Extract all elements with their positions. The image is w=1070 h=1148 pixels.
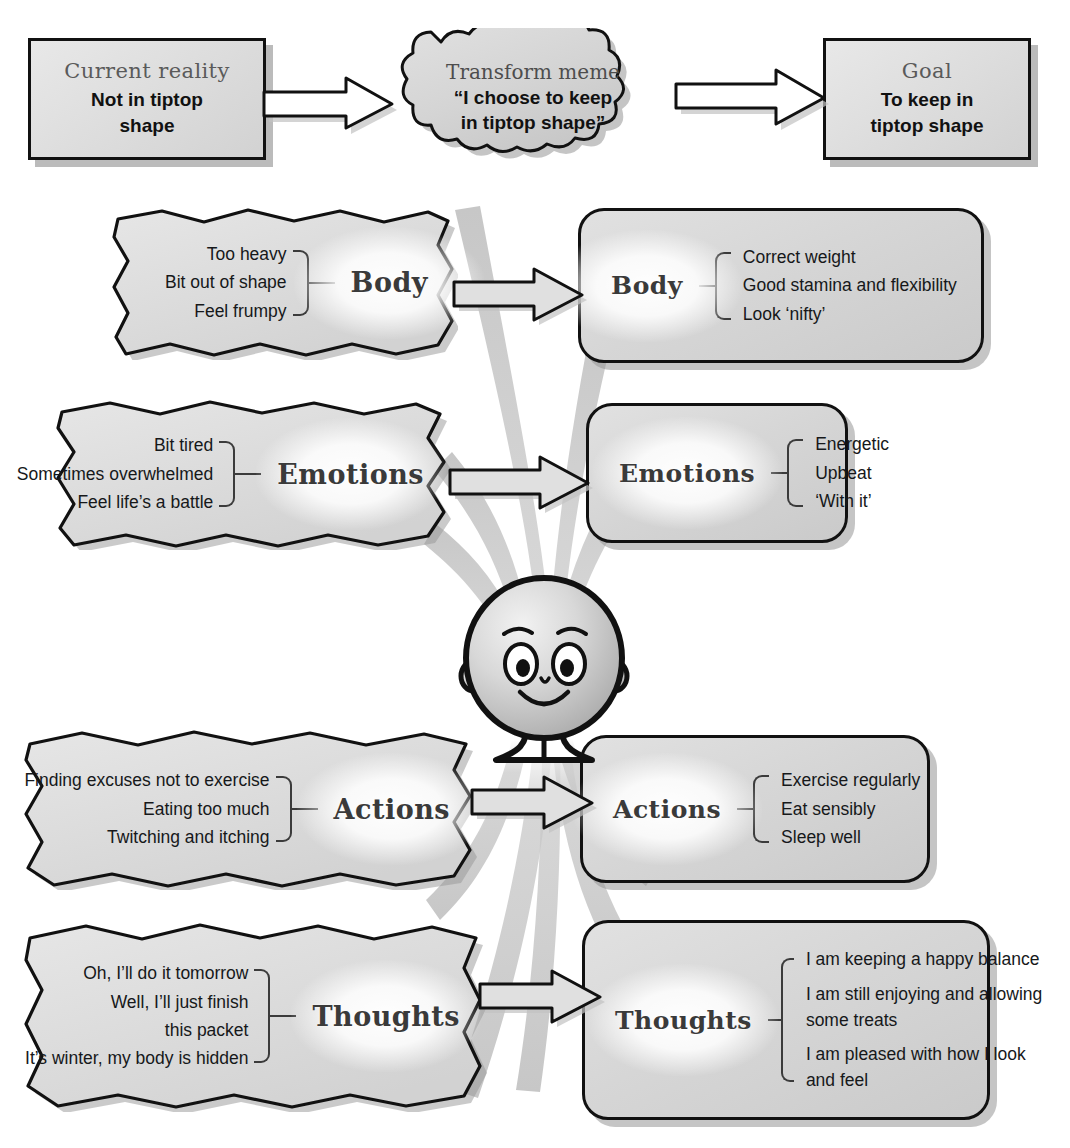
brace-icon: [219, 441, 235, 507]
brace-icon: [787, 439, 803, 507]
current-reality-box: Current reality Not in tiptop shape: [28, 38, 266, 160]
list-item: Too heavy: [165, 240, 287, 268]
goal-heading: Goal: [902, 59, 952, 83]
brace-icon: [753, 775, 769, 843]
list-item: Sometimes overwhelmed: [17, 460, 213, 488]
list-item: Exercise regularly: [781, 766, 920, 794]
list-item: Good stamina and flexibility: [743, 271, 957, 299]
connector-line: [771, 472, 787, 474]
list-item: Finding excuses not to exercise: [24, 766, 269, 794]
current-body-label-glow: Body: [335, 253, 444, 312]
current-body-items: Too heavy Bit out of shape Feel frumpy: [165, 240, 287, 325]
list-item: Twitching and itching: [24, 823, 269, 851]
list-item: Correct weight: [743, 243, 957, 271]
list-item: Feel life’s a battle: [17, 488, 213, 516]
current-actions-items: Finding excuses not to exercise Eating t…: [24, 766, 269, 851]
current-reality-body: Not in tiptop shape: [91, 87, 203, 138]
brace-icon: [276, 776, 292, 842]
list-item: I am still enjoying and allowing some tr…: [806, 981, 1046, 1034]
list-item: Eating too much: [24, 795, 269, 823]
current-body-rows: Too heavy Bit out of shape Feel frumpy B…: [165, 240, 444, 325]
connector-line: [699, 285, 715, 287]
current-actions-label: Actions: [334, 794, 450, 825]
goal-emotions-label: Emotions: [619, 459, 755, 488]
arrow-meme-to-goal: [672, 62, 832, 134]
goal-body-rows: Body Correct weight Good stamina and fle…: [595, 243, 957, 328]
goal-thoughts-items: I am keeping a happy balance I am still …: [806, 946, 1046, 1093]
goal-actions-items: Exercise regularly Eat sensibly Sleep we…: [781, 766, 920, 851]
current-emotions-label: Emotions: [277, 459, 424, 490]
connector-line: [235, 473, 261, 475]
connector-line: [737, 808, 753, 810]
brace-icon: [715, 252, 731, 320]
goal-emotions-box: Emotions Energetic Upbeat ‘With it’: [586, 403, 848, 543]
list-item: Bit out of shape: [165, 268, 287, 296]
connector-line: [270, 1015, 296, 1017]
list-item: Energetic: [815, 430, 889, 458]
goal-thoughts-box: Thoughts I am keeping a happy balance I …: [582, 920, 990, 1120]
current-thoughts-items: Oh, I’ll do it tomorrow Well, I’ll just …: [25, 959, 248, 1072]
arrow-actions: [470, 768, 600, 838]
current-emotions-items: Bit tired Sometimes overwhelmed Feel lif…: [17, 431, 213, 516]
transform-meme-body: “I choose to keep in tiptop shape”: [454, 86, 612, 135]
brace-icon: [781, 958, 794, 1082]
goal-body: To keep in tiptop shape: [871, 87, 984, 138]
list-item: Oh, I’ll do it tomorrow: [25, 959, 248, 987]
current-emotions-label-glow: Emotions: [261, 445, 440, 504]
current-emotions-box: Bit tired Sometimes overwhelmed Feel lif…: [52, 398, 452, 550]
current-thoughts-rows: Oh, I’ll do it tomorrow Well, I’ll just …: [25, 959, 476, 1072]
arrow-thoughts: [478, 962, 608, 1032]
current-emotions-rows: Bit tired Sometimes overwhelmed Feel lif…: [17, 431, 440, 516]
list-item: Sleep well: [781, 823, 920, 851]
connector-line: [309, 282, 335, 284]
list-item: Eat sensibly: [781, 795, 920, 823]
list-item: It’s winter, my body is hidden: [25, 1044, 248, 1072]
list-item: I am pleased with how I look and feel: [806, 1041, 1046, 1094]
diagram-canvas: Current reality Not in tiptop shape Tran…: [0, 0, 1070, 1148]
brace-icon: [293, 250, 309, 316]
transform-meme-cloud: Transform meme “I choose to keep in tipt…: [381, 28, 685, 168]
goal-thoughts-rows: Thoughts I am keeping a happy balance I …: [599, 946, 1045, 1093]
current-body-label: Body: [351, 267, 428, 298]
current-thoughts-label-glow: Thoughts: [296, 987, 476, 1046]
connector-line: [292, 808, 318, 810]
current-actions-rows: Finding excuses not to exercise Eating t…: [24, 766, 466, 851]
list-item: I am keeping a happy balance: [806, 946, 1046, 972]
goal-body-items: Correct weight Good stamina and flexibil…: [743, 243, 957, 328]
goal-body-label: Body: [611, 271, 683, 300]
character-illustration: [432, 570, 672, 770]
goal-thoughts-label: Thoughts: [615, 1006, 752, 1035]
goal-body-box: Body Correct weight Good stamina and fle…: [578, 208, 984, 363]
goal-body-label-glow: Body: [595, 257, 699, 314]
arrow-current-to-meme: [258, 68, 398, 138]
list-item: Feel frumpy: [165, 297, 287, 325]
goal-emotions-label-glow: Emotions: [603, 445, 771, 502]
list-item: Look ‘nifty’: [743, 300, 957, 328]
brace-icon: [254, 969, 270, 1063]
current-actions-box: Finding excuses not to exercise Eating t…: [20, 728, 480, 890]
goal-actions-rows: Actions Exercise regularly Eat sensibly …: [597, 766, 920, 851]
transform-meme-text: Transform meme “I choose to keep in tipt…: [381, 28, 685, 168]
goal-emotions-items: Energetic Upbeat ‘With it’: [815, 430, 889, 515]
list-item: Well, I’ll just finish: [25, 988, 248, 1016]
goal-actions-label: Actions: [613, 795, 721, 824]
current-actions-label-glow: Actions: [318, 780, 466, 839]
goal-thoughts-label-glow: Thoughts: [599, 992, 768, 1049]
current-thoughts-box: Oh, I’ll do it tomorrow Well, I’ll just …: [20, 920, 490, 1112]
current-body-box: Too heavy Bit out of shape Feel frumpy B…: [108, 205, 458, 360]
arrow-emotions: [448, 448, 598, 518]
connector-line: [768, 1019, 781, 1021]
goal-box: Goal To keep in tiptop shape: [823, 38, 1031, 160]
smiling-person-figure: [432, 570, 672, 770]
list-item: Upbeat: [815, 459, 889, 487]
list-item: Bit tired: [17, 431, 213, 459]
current-reality-heading: Current reality: [64, 59, 229, 83]
goal-emotions-rows: Emotions Energetic Upbeat ‘With it’: [603, 430, 889, 515]
goal-actions-label-glow: Actions: [597, 781, 737, 838]
transform-meme-heading: Transform meme: [446, 60, 620, 84]
list-item: this packet: [25, 1016, 248, 1044]
arrow-body: [452, 260, 592, 330]
list-item: ‘With it’: [815, 487, 889, 515]
current-thoughts-label: Thoughts: [312, 1001, 460, 1032]
